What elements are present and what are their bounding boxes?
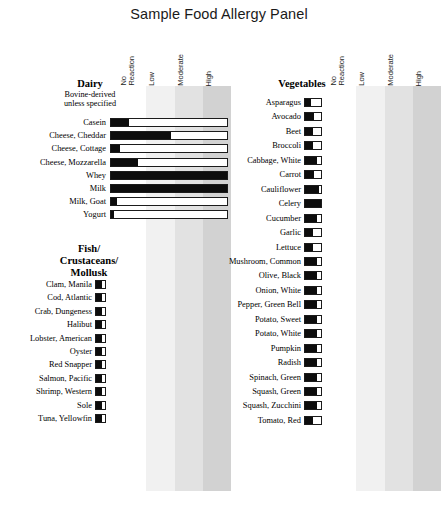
group-heading-vegetables: Vegetables <box>232 78 372 90</box>
bar-track <box>304 315 322 324</box>
row-label: Shrimp, Western <box>36 386 92 397</box>
bar-fill <box>305 359 317 366</box>
bar-fill <box>96 348 102 355</box>
bar-track <box>110 131 228 140</box>
chart-row: Celery <box>232 198 438 209</box>
bar-fill <box>111 172 227 179</box>
bar-fill <box>305 113 314 120</box>
bar-fill <box>305 142 313 149</box>
bar-fill <box>96 375 102 382</box>
bar-track <box>95 414 106 423</box>
chart-row: Casein <box>0 117 232 128</box>
row-label: Crab, Dungeness <box>35 306 92 317</box>
chart-row: Milk <box>0 183 232 194</box>
bar-track <box>304 286 322 295</box>
chart-row: Spinach, Green <box>232 372 438 383</box>
chart-row: Salmon, Pacific <box>0 373 232 384</box>
chart-row: Mushroom, Common <box>232 256 438 267</box>
row-label: Whey <box>86 170 106 181</box>
bar-track <box>95 401 106 410</box>
bar-fill <box>305 316 317 323</box>
bar-track <box>95 307 106 316</box>
row-label: Potato, White <box>255 328 301 339</box>
bar-track <box>110 144 228 153</box>
row-label: Celery <box>279 198 301 209</box>
chart-row: Shrimp, Western <box>0 386 232 397</box>
bar-fill <box>111 185 227 192</box>
bar-track <box>304 141 322 150</box>
chart-row: Lettuce <box>232 242 438 253</box>
bar-fill <box>305 345 317 352</box>
bar-fill <box>305 417 313 424</box>
row-label: Cheese, Cottage <box>52 143 106 154</box>
row-label: Clam, Manila <box>46 279 92 290</box>
bar-track <box>304 228 322 237</box>
bar-track <box>304 156 322 165</box>
bar-track <box>304 416 322 425</box>
chart-row: Cheese, Mozzarella <box>0 157 232 168</box>
bar-track <box>304 257 322 266</box>
right-panel: No ReactionLowModerateHigh Vegetables As… <box>232 0 438 509</box>
chart-row: Tuna, Yellowfin <box>0 413 232 424</box>
chart-row: Pepper, Green Bell <box>232 299 438 310</box>
bar-fill <box>305 229 313 236</box>
bar-track <box>304 127 322 136</box>
chart-row: Avocado <box>232 111 438 122</box>
bar-fill <box>305 388 317 395</box>
bar-track <box>304 387 322 396</box>
row-label: Mushroom, Common <box>229 256 301 267</box>
row-label: Avocado <box>271 111 301 122</box>
chart-row: Squash, Zucchini <box>232 400 438 411</box>
group-subtitle-dairy-line1: Bovine-derived <box>0 90 180 99</box>
scale-header-moderate: Moderate <box>387 54 395 86</box>
row-label: Onion, White <box>256 285 301 296</box>
row-label: Carrot <box>280 169 301 180</box>
bar-fill <box>305 374 317 381</box>
bar-fill <box>111 211 114 218</box>
group-subtitle-dairy-line2: unless specified <box>0 99 180 108</box>
left-panel: No ReactionLowModerateHigh Dairy Bovine-… <box>0 0 232 509</box>
bar-track <box>304 300 322 309</box>
chart-row: Clam, Manila <box>0 279 232 290</box>
row-label: Broccoli <box>272 140 301 151</box>
row-label: Cauliflower <box>261 184 301 195</box>
bar-fill <box>96 402 102 409</box>
row-label: Lobster, American <box>30 333 92 344</box>
bar-track <box>110 158 228 167</box>
bar-fill <box>96 388 102 395</box>
chart-row: Tomato, Red <box>232 415 438 426</box>
bar-track <box>304 344 322 353</box>
chart-row: Potato, White <box>232 328 438 339</box>
chart-row: Olive, Black <box>232 270 438 281</box>
bar-fill <box>305 128 313 135</box>
bar-fill <box>111 198 117 205</box>
bar-track <box>304 112 322 121</box>
row-label: Oyster <box>70 346 92 357</box>
bar-track <box>304 185 322 194</box>
bar-fill <box>305 330 317 337</box>
row-label: Pumpkin <box>271 343 301 354</box>
scale-header-high: High <box>205 71 213 86</box>
bar-fill <box>305 200 321 207</box>
bar-track <box>304 358 322 367</box>
bar-track <box>304 199 322 208</box>
row-label: Halibut <box>67 319 92 330</box>
bar-track <box>304 98 322 107</box>
chart-row: Yogurt <box>0 209 232 220</box>
row-label: Radish <box>278 357 301 368</box>
row-label: Red Snapper <box>49 359 92 370</box>
row-label: Potato, Sweet <box>255 314 301 325</box>
chart-row: Milk, Goat <box>0 196 232 207</box>
bar-fill <box>305 99 311 106</box>
chart-row: Whey <box>0 170 232 181</box>
bar-fill <box>305 301 317 308</box>
row-label: Casein <box>83 117 106 128</box>
bar-fill <box>305 287 317 294</box>
bar-fill <box>305 186 319 193</box>
bar-fill <box>96 308 102 315</box>
bar-track <box>95 374 106 383</box>
bar-fill <box>111 159 138 166</box>
row-label: Lettuce <box>276 242 301 253</box>
chart-row: Cauliflower <box>232 184 438 195</box>
